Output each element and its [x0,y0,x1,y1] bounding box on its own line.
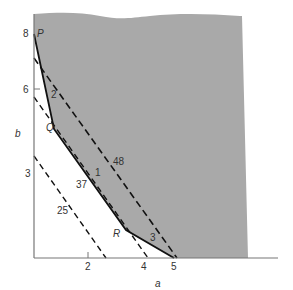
point-label-q: Q [46,122,54,133]
iso-label-37: 37 [76,179,88,190]
y-tick-label-6: 6 [23,84,29,95]
segment-label-2: 2 [51,89,57,100]
feasible-region [34,13,248,258]
point-label-r: R [113,228,120,239]
y-axis-label: b [15,128,21,139]
segment-label-1: 1 [95,167,101,178]
x-tick-label-4: 4 [141,261,147,272]
feasible-region-diagram: 8 6 3 2 4 5 b a P Q R 2 1 3 48 37 25 [0,0,293,290]
iso-label-25: 25 [57,205,69,216]
x-tick-label-2: 2 [85,261,91,272]
iso-label-48: 48 [113,156,125,167]
y-tick-label-3: 3 [25,168,31,179]
point-label-p: P [37,28,44,39]
y-tick-label-8: 8 [23,28,29,39]
x-axis-label: a [155,278,161,289]
segment-label-3: 3 [150,232,156,243]
x-tick-label-5: 5 [171,261,177,272]
